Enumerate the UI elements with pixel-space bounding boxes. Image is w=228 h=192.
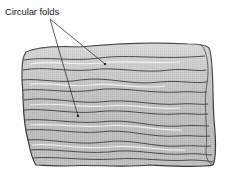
circular-folds-label: Circular folds [5,6,59,17]
leader-dot-lower [77,115,79,117]
tissue-illustration [0,0,228,192]
leader-dot-upper [104,63,106,65]
circular-folds-diagram: Circular folds [0,0,228,192]
